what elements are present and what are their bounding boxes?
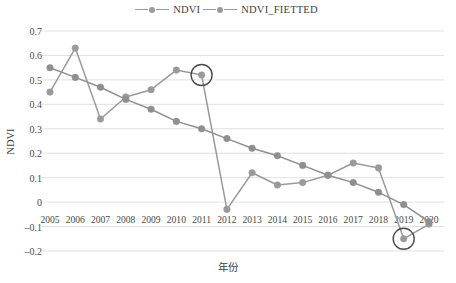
- data-point-marker[interactable]: [274, 182, 281, 189]
- data-point-marker[interactable]: [249, 170, 256, 177]
- ndvi-line-chart: NDVI NDVI_FIETTED NDVI 年份 0.70.60.50.40.…: [0, 0, 456, 283]
- data-point-marker[interactable]: [224, 206, 231, 213]
- data-point-marker[interactable]: [224, 135, 231, 142]
- data-point-marker[interactable]: [123, 96, 130, 103]
- data-point-marker[interactable]: [325, 172, 332, 179]
- data-point-marker[interactable]: [173, 118, 180, 125]
- data-point-marker[interactable]: [249, 145, 256, 152]
- data-point-marker[interactable]: [47, 89, 54, 96]
- data-point-marker[interactable]: [400, 201, 407, 208]
- plot-area: [0, 0, 456, 283]
- data-point-marker[interactable]: [97, 116, 104, 123]
- data-point-marker[interactable]: [97, 84, 104, 91]
- data-point-marker[interactable]: [400, 236, 407, 243]
- series-line-ndvi-fietted: [50, 68, 429, 222]
- data-point-marker[interactable]: [350, 160, 357, 167]
- data-point-marker[interactable]: [299, 179, 306, 186]
- data-point-marker[interactable]: [173, 67, 180, 74]
- data-point-marker[interactable]: [426, 218, 433, 225]
- data-point-marker[interactable]: [198, 126, 205, 133]
- data-point-marker[interactable]: [350, 179, 357, 186]
- data-point-marker[interactable]: [47, 64, 54, 71]
- data-point-marker[interactable]: [72, 45, 79, 52]
- data-point-marker[interactable]: [198, 72, 205, 79]
- data-point-marker[interactable]: [299, 162, 306, 169]
- data-point-marker[interactable]: [375, 165, 382, 172]
- data-point-marker[interactable]: [148, 86, 155, 93]
- data-point-marker[interactable]: [72, 74, 79, 81]
- data-point-marker[interactable]: [274, 152, 281, 159]
- data-point-marker[interactable]: [148, 106, 155, 113]
- data-point-marker[interactable]: [375, 189, 382, 196]
